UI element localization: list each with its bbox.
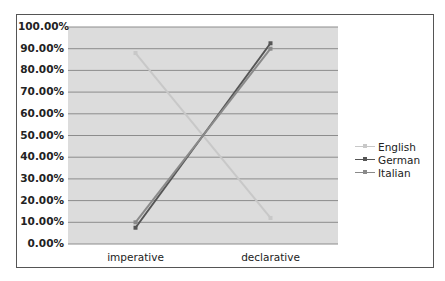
legend: EnglishGermanItalian xyxy=(355,140,420,179)
legend-label: Italian xyxy=(378,167,411,179)
data-point-marker xyxy=(134,51,138,55)
legend-item-english: English xyxy=(355,140,420,153)
data-point-marker xyxy=(134,226,138,230)
data-point-marker xyxy=(269,47,273,51)
legend-item-italian: Italian xyxy=(355,166,420,179)
legend-label: German xyxy=(378,154,420,166)
legend-item-german: German xyxy=(355,153,420,166)
data-point-marker xyxy=(269,41,273,45)
data-point-marker xyxy=(134,220,138,224)
legend-swatch-icon xyxy=(355,146,375,147)
legend-label: English xyxy=(378,141,416,153)
legend-swatch-icon xyxy=(355,172,375,173)
legend-swatch-icon xyxy=(355,159,375,160)
data-point-marker xyxy=(269,216,273,220)
